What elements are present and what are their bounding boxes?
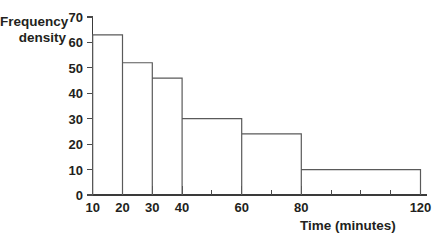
y-tick-label: 50: [69, 61, 83, 76]
y-tick-label-group: 0 10 20 30 40 50 60 70: [69, 10, 83, 203]
x-tick-label-group: 10 20 30 40 60 80 120: [85, 200, 431, 215]
x-tick-label: 80: [294, 200, 308, 215]
x-tick-label: 40: [175, 200, 189, 215]
y-tick-label: 70: [69, 10, 83, 25]
y-axis-title: Frequency density: [0, 14, 66, 46]
x-tick-label: 10: [85, 200, 99, 215]
x-tick-label: 30: [145, 200, 159, 215]
x-tick-label: 20: [115, 200, 129, 215]
x-tick-group: [93, 186, 421, 195]
x-tick-label: 60: [234, 200, 248, 215]
histogram-bar-outline: [93, 35, 421, 195]
y-tick-label: 40: [69, 86, 83, 101]
y-axis-title-line-2: density: [0, 30, 66, 46]
histogram-plot-area: 0 10 20 30 40 50 60 70 10: [0, 0, 442, 250]
y-tick-label: 30: [69, 112, 83, 127]
histogram-figure: 0 10 20 30 40 50 60 70 10: [0, 0, 442, 250]
histogram-bars-group: [93, 35, 421, 195]
y-tick-group: [87, 17, 93, 195]
y-tick-label: 20: [69, 137, 83, 152]
y-tick-label: 0: [76, 188, 83, 203]
y-tick-label: 60: [69, 35, 83, 50]
x-axis-title: Time (minutes): [300, 218, 396, 233]
y-tick-label: 10: [69, 163, 83, 178]
y-axis-title-line-1: Frequency: [0, 14, 66, 30]
axes-group: [93, 16, 428, 195]
x-tick-label: 120: [410, 200, 432, 215]
